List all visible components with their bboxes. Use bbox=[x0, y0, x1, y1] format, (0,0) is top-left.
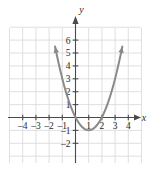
y-tick-label: –1 bbox=[60, 126, 71, 136]
coordinate-plane-chart: –4–3–2–11234–2–1123456 x y bbox=[0, 0, 150, 169]
x-tick-label: –2 bbox=[43, 121, 54, 131]
x-tick-label: –3 bbox=[30, 121, 41, 131]
x-axis-label: x bbox=[141, 112, 147, 123]
y-tick-label: –2 bbox=[60, 139, 71, 149]
x-tick-label: 3 bbox=[113, 121, 118, 131]
y-tick-label: 4 bbox=[66, 61, 71, 71]
y-tick-label: 6 bbox=[66, 36, 71, 46]
x-tick-label: 4 bbox=[126, 121, 131, 131]
x-tick-label: 2 bbox=[100, 121, 105, 131]
graph-figure: –4–3–2–11234–2–1123456 x y bbox=[0, 0, 150, 169]
y-axis-label: y bbox=[78, 4, 84, 15]
y-tick-label: 5 bbox=[66, 48, 71, 58]
y-tick-label: 3 bbox=[66, 74, 71, 84]
x-tick-label: –4 bbox=[17, 121, 28, 131]
